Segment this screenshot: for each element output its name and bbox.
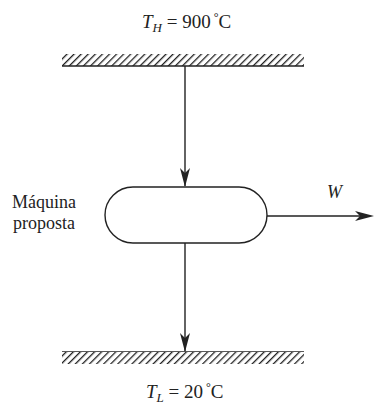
cold-temp-unit: C (211, 381, 224, 402)
heat-in-arrow (180, 66, 190, 187)
engine-label-line1: Máquina (12, 192, 76, 213)
hot-temperature-label: TH = 900°C (142, 11, 231, 34)
hot-reservoir (62, 54, 304, 66)
engine-label: Máquina proposta (12, 192, 76, 234)
hot-temp-value: 900 (182, 11, 211, 32)
hot-temp-unit: C (219, 11, 232, 32)
work-arrow (267, 211, 374, 221)
hot-temp-symbol: T (142, 11, 153, 32)
cold-temp-symbol: T (146, 381, 157, 402)
hot-temp-equals: = (167, 11, 178, 32)
cold-temperature-label: TL = 20°C (146, 381, 224, 404)
engine-capsule (105, 187, 267, 243)
cold-temp-subscript: L (157, 390, 164, 405)
cold-reservoir (62, 352, 304, 364)
heat-out-arrow (180, 243, 190, 352)
engine-label-line2: proposta (12, 213, 76, 234)
work-label: W (327, 182, 342, 203)
hot-temp-subscript: H (153, 20, 162, 35)
cold-temp-value: 20 (184, 381, 203, 402)
cold-temp-equals: = (169, 381, 180, 402)
